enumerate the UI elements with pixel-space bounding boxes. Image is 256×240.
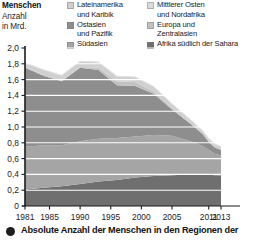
- y-tick-label: 1,0: [7, 122, 19, 132]
- x-tick-label: 1995: [101, 212, 120, 222]
- y-axis: [22, 46, 26, 206]
- y-tick-label: 1,6: [7, 75, 19, 85]
- x-tick-label: 2000: [132, 212, 151, 222]
- x-tick-label: 1990: [71, 212, 90, 222]
- y-tick-labels-group: 00,20,40,60,81,01,21,41,61,82,0: [7, 44, 19, 211]
- legend-label: Lateinamerika und Karibik: [77, 0, 123, 19]
- caption-text: Absolute Anzahl der Menschen in den Regi…: [21, 224, 238, 236]
- chart-header: Menschen Anzahl in Mrd. Lateinamerika un…: [0, 0, 256, 48]
- x-tick-label: 1981: [16, 212, 35, 222]
- x-tick-label: 1985: [40, 212, 59, 222]
- legend-item-ostasien-und-pazifik[interactable]: Ostasien und Pazifik: [67, 20, 141, 39]
- y-axis-title: Menschen Anzahl in Mrd.: [2, 1, 64, 33]
- y-tick-label: 0,4: [7, 169, 19, 179]
- y-tick-label: 1,4: [7, 90, 19, 100]
- legend-swatch-icon: [67, 22, 74, 29]
- legend-item-lateinamerika-und-karibik[interactable]: Lateinamerika und Karibik: [67, 0, 141, 19]
- legend-label: Mittlerer Osten und Nordafrika: [157, 0, 205, 19]
- y-tick-label: 0,8: [7, 138, 19, 148]
- legend-item-mittlerer-osten-und-nordafrika[interactable]: Mittlerer Osten und Nordafrika: [147, 0, 256, 19]
- legend-item-europa-und-zentralasien[interactable]: Europa und Zentralasien: [147, 20, 256, 39]
- stacked-area-chart: 00,20,40,60,81,01,21,41,61,82,0 19811985…: [0, 44, 256, 222]
- y-tick-label: 1,8: [7, 59, 19, 69]
- chart-caption: Absolute Anzahl der Menschen in den Regi…: [0, 224, 256, 240]
- legend-column-2: Mittlerer Osten und Nordafrika Europa un…: [147, 0, 256, 49]
- area-series-group: [25, 61, 221, 206]
- y-tick-label: 0: [14, 201, 19, 211]
- legend-label: Ostasien und Pazifik: [77, 20, 113, 39]
- chart-legend: Lateinamerika und Karibik Ostasien und P…: [67, 0, 256, 49]
- legend-swatch-icon: [67, 2, 74, 9]
- chart-plot-area: 00,20,40,60,81,01,21,41,61,82,0 19811985…: [0, 44, 256, 222]
- y-tick-label: 0,2: [7, 185, 19, 195]
- x-tick-label: 2005: [163, 212, 182, 222]
- x-tick-label: 2013: [212, 212, 231, 222]
- x-tick-labels-group: 19811985199019952000200520112013: [16, 212, 231, 222]
- y-axis-title-line2: Anzahl: [2, 12, 64, 23]
- legend-swatch-icon: [147, 2, 154, 9]
- y-tick-label: 1,2: [7, 106, 19, 116]
- y-tick-label: 2,0: [7, 44, 19, 53]
- legend-label: Europa und Zentralasien: [157, 20, 197, 39]
- legend-swatch-icon: [147, 22, 154, 29]
- y-tick-label: 0,6: [7, 154, 19, 164]
- y-axis-title-line3: in Mrd.: [2, 22, 64, 33]
- bullet-icon: [6, 227, 15, 236]
- y-axis-title-line1: Menschen: [2, 1, 64, 12]
- x-axis: [22, 206, 240, 210]
- legend-column-1: Lateinamerika und Karibik Ostasien und P…: [67, 0, 141, 49]
